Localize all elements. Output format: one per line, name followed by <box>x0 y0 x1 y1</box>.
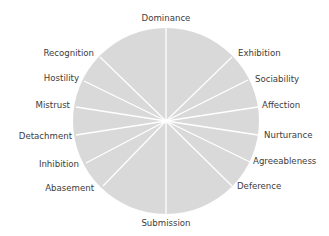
label-inhibition: Inhibition <box>39 159 79 169</box>
label-deference: Deference <box>237 181 281 191</box>
center-point <box>164 119 167 122</box>
label-submission: Submission <box>141 218 190 228</box>
label-nurturance: Nurturance <box>264 130 312 140</box>
label-dominance: Dominance <box>142 13 191 23</box>
label-affection: Affection <box>262 100 300 110</box>
label-exhibition: Exhibition <box>238 48 281 58</box>
label-agreeableness: Agreeableness <box>253 156 317 166</box>
label-recognition: Recognition <box>43 48 94 58</box>
label-hostility: Hostility <box>44 73 79 83</box>
circumplex-diagram: Dominance Submission Exhibition Sociabil… <box>0 0 329 236</box>
label-abasement: Abasement <box>45 183 94 193</box>
label-sociability: Sociability <box>255 74 299 84</box>
label-detachment: Detachment <box>19 131 73 141</box>
label-mistrust: Mistrust <box>36 100 71 110</box>
